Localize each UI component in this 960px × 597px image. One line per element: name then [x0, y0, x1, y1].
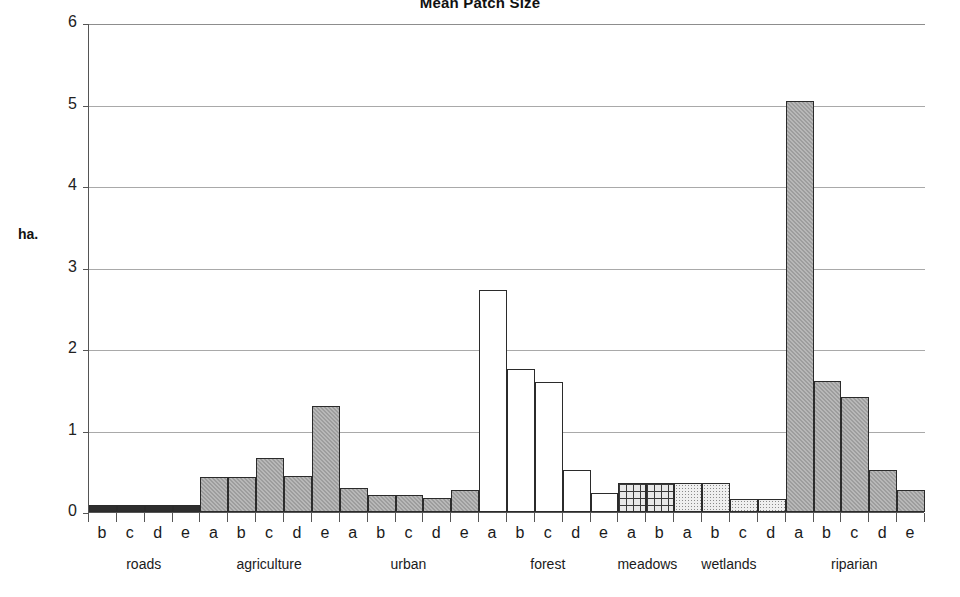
- bar-riparian-c: [841, 397, 869, 512]
- bar-urban-a: [340, 488, 368, 512]
- x-tick-mark: [785, 513, 786, 522]
- x-tick-mark: [367, 513, 368, 522]
- bar-agriculture-a: [200, 477, 228, 512]
- x-sub-label-wetlands-a: a: [673, 524, 701, 542]
- x-sub-label-roads-b: b: [88, 524, 116, 542]
- chart-title: Mean Patch Size: [0, 0, 960, 11]
- bar-agriculture-c: [256, 458, 284, 512]
- x-group-label-roads: roads: [88, 556, 199, 572]
- x-tick-mark: [813, 513, 814, 522]
- x-tick-mark: [116, 513, 117, 522]
- x-tick-mark: [283, 513, 284, 522]
- bar-riparian-e: [897, 490, 925, 512]
- bar-forest-c: [535, 382, 563, 512]
- bar-roads-c: [117, 505, 145, 512]
- x-tick-mark: [924, 513, 925, 522]
- x-axis-ticks: [88, 513, 924, 523]
- x-tick-mark: [701, 513, 702, 522]
- y-axis-label: ha.: [18, 226, 38, 242]
- bar-agriculture-d: [284, 476, 312, 512]
- bar-meadows-b: [646, 483, 674, 512]
- x-tick-mark: [172, 513, 173, 522]
- y-tick-label: 3: [47, 258, 77, 276]
- x-sub-label-agriculture-c: c: [255, 524, 283, 542]
- x-tick-mark: [422, 513, 423, 522]
- x-tick-mark: [757, 513, 758, 522]
- bar-wetlands-c: [730, 499, 758, 512]
- bars-layer: [89, 23, 925, 512]
- x-sub-label-forest-e: e: [590, 524, 618, 542]
- bar-wetlands-a: [674, 483, 702, 512]
- x-tick-mark: [617, 513, 618, 522]
- x-tick-mark: [729, 513, 730, 522]
- y-tick-label: 4: [47, 176, 77, 194]
- bar-forest-d: [563, 470, 591, 512]
- x-sub-label-riparian-a: a: [785, 524, 813, 542]
- x-tick-mark: [868, 513, 869, 522]
- x-tick-mark: [673, 513, 674, 522]
- x-group-label-wetlands: wetlands: [673, 556, 784, 572]
- x-sub-label-wetlands-b: b: [701, 524, 729, 542]
- bar-forest-e: [591, 493, 619, 512]
- x-tick-mark: [144, 513, 145, 522]
- x-tick-mark: [562, 513, 563, 522]
- x-tick-mark: [645, 513, 646, 522]
- x-sub-label-meadows-b: b: [645, 524, 673, 542]
- bar-roads-d: [145, 505, 173, 512]
- x-tick-mark: [506, 513, 507, 522]
- x-sub-label-forest-c: c: [534, 524, 562, 542]
- x-sub-label-roads-c: c: [116, 524, 144, 542]
- x-sub-label-agriculture-a: a: [199, 524, 227, 542]
- bar-forest-a: [479, 290, 507, 512]
- bar-urban-e: [451, 490, 479, 512]
- x-tick-mark: [590, 513, 591, 522]
- x-tick-mark: [450, 513, 451, 522]
- x-tick-mark: [255, 513, 256, 522]
- x-sub-label-roads-d: d: [144, 524, 172, 542]
- x-tick-mark: [534, 513, 535, 522]
- x-sub-label-wetlands-d: d: [757, 524, 785, 542]
- x-group-label-agriculture: agriculture: [199, 556, 338, 572]
- mean-patch-size-chart: Mean Patch Size ha. 0123456 bcdeabcdeabc…: [0, 0, 960, 597]
- x-axis-subcategory-labels: bcdeabcdeabcdeabcdeababcdabcde: [88, 524, 924, 550]
- x-sub-label-riparian-b: b: [813, 524, 841, 542]
- x-sub-label-wetlands-c: c: [729, 524, 757, 542]
- bar-urban-d: [423, 498, 451, 512]
- x-sub-label-riparian-c: c: [840, 524, 868, 542]
- x-group-label-meadows: meadows: [617, 556, 673, 572]
- x-axis-group-labels: roadsagricultureurbanforestmeadowswetlan…: [88, 556, 924, 580]
- x-sub-label-urban-b: b: [367, 524, 395, 542]
- y-tick-label: 2: [47, 339, 77, 357]
- x-sub-label-agriculture-e: e: [311, 524, 339, 542]
- x-sub-label-agriculture-d: d: [283, 524, 311, 542]
- bar-roads-e: [173, 505, 201, 512]
- x-sub-label-forest-a: a: [478, 524, 506, 542]
- x-tick-mark: [88, 513, 89, 522]
- x-tick-mark: [478, 513, 479, 522]
- x-sub-label-urban-d: d: [422, 524, 450, 542]
- x-tick-mark: [339, 513, 340, 522]
- x-group-label-forest: forest: [478, 556, 617, 572]
- x-sub-label-riparian-e: e: [896, 524, 924, 542]
- bar-wetlands-d: [758, 499, 786, 512]
- bar-agriculture-b: [228, 477, 256, 512]
- y-tick-label: 1: [47, 421, 77, 439]
- x-tick-mark: [395, 513, 396, 522]
- y-tick-label: 6: [47, 13, 77, 31]
- x-tick-mark: [199, 513, 200, 522]
- bar-wetlands-b: [702, 483, 730, 512]
- bar-urban-b: [368, 495, 396, 512]
- bar-meadows-a: [618, 483, 646, 512]
- bar-riparian-d: [869, 470, 897, 512]
- x-sub-label-roads-e: e: [172, 524, 200, 542]
- y-tick-label: 5: [47, 95, 77, 113]
- x-tick-mark: [896, 513, 897, 522]
- x-tick-mark: [840, 513, 841, 522]
- bar-roads-b: [89, 505, 117, 512]
- x-sub-label-urban-c: c: [395, 524, 423, 542]
- bar-riparian-a: [786, 101, 814, 512]
- x-sub-label-forest-b: b: [506, 524, 534, 542]
- x-sub-label-agriculture-b: b: [227, 524, 255, 542]
- x-sub-label-urban-a: a: [339, 524, 367, 542]
- x-group-label-urban: urban: [339, 556, 478, 572]
